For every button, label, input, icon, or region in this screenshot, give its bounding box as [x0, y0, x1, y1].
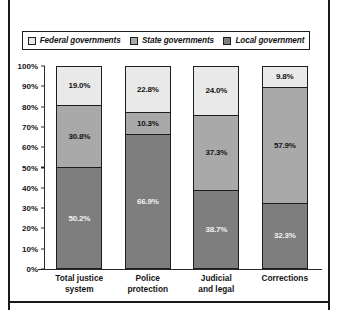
- y-axis-tick: 80%: [10, 102, 45, 111]
- x-axis-category-label-line: Judicial: [177, 273, 255, 284]
- bar-segment[interactable]: 10.3%: [126, 112, 170, 134]
- x-axis-category-label-line: Total justice: [40, 273, 118, 284]
- bar-segment[interactable]: 9.8%: [263, 67, 307, 87]
- bar-segment-value-label: 10.3%: [137, 119, 159, 128]
- legend-item-label: Local government: [235, 36, 304, 45]
- legend-swatch-icon: [223, 37, 231, 45]
- bar-segment-value-label: 37.3%: [205, 148, 227, 157]
- y-axis-tick-label: 10%: [10, 244, 41, 253]
- stacked-bar[interactable]: 19.0%30.8%50.2%: [56, 66, 102, 269]
- x-axis-category-label: Total justicesystem: [40, 273, 118, 294]
- legend-swatch-icon: [28, 37, 36, 45]
- y-axis-tick-mark: [41, 106, 45, 107]
- stacked-bar[interactable]: 22.8%10.3%66.9%: [125, 66, 171, 269]
- page-rule-left: [8, 0, 10, 310]
- bar-segment-value-label: 57.9%: [274, 141, 296, 150]
- y-axis-tick-label: 50%: [10, 163, 41, 172]
- bar-segment[interactable]: 37.3%: [194, 115, 238, 190]
- bar-segment[interactable]: 57.9%: [263, 87, 307, 203]
- y-axis-tick-label: 30%: [10, 204, 41, 213]
- bar-segment-value-label: 38.7%: [205, 225, 227, 234]
- y-axis-tick-label: 20%: [10, 224, 41, 233]
- legend-item: Local government: [223, 36, 304, 45]
- x-axis-category-label: Policeprotection: [109, 273, 187, 294]
- y-axis-tick-mark: [41, 187, 45, 188]
- y-axis-tick: 40%: [10, 183, 45, 192]
- y-axis-tick: 30%: [10, 204, 45, 213]
- y-axis-tick: 20%: [10, 224, 45, 233]
- page-rule-bottom: [8, 301, 329, 303]
- y-axis-tick-label: 0%: [10, 265, 41, 274]
- y-axis-tick-mark: [41, 208, 45, 209]
- y-axis-tick-label: 40%: [10, 183, 41, 192]
- x-axis-category-label-line: Corrections: [246, 273, 324, 284]
- x-axis-category-label: Judicialand legal: [177, 273, 255, 294]
- plot-area: 100%90%80%70%60%50%40%30%20%10%0%19.0%30…: [45, 66, 319, 269]
- bar-segment-value-label: 50.2%: [68, 214, 90, 223]
- x-axis-baseline: [38, 269, 322, 270]
- bar-segment-value-label: 22.8%: [137, 85, 159, 94]
- x-axis-category-label-line: protection: [109, 284, 187, 295]
- y-axis-tick-mark: [41, 126, 45, 127]
- bar-segment-value-label: 19.0%: [68, 81, 90, 90]
- y-axis-tick-mark: [41, 147, 45, 148]
- y-axis-tick-mark: [41, 268, 45, 269]
- bar-segment[interactable]: 22.8%: [126, 67, 170, 112]
- y-axis-tick-mark: [41, 228, 45, 229]
- legend-item-label: State governments: [142, 36, 214, 45]
- legend-swatch-icon: [130, 37, 138, 45]
- stacked-bar-chart-figure: Federal governmentsState governmentsLoca…: [0, 0, 337, 310]
- y-axis-tick-label: 90%: [10, 82, 41, 91]
- page-rule-right: [328, 0, 330, 310]
- bar-segment[interactable]: 19.0%: [57, 67, 101, 105]
- bar-segment[interactable]: 38.7%: [194, 190, 238, 268]
- y-axis-tick-label: 80%: [10, 102, 41, 111]
- legend-item: Federal governments: [28, 36, 121, 45]
- bar-segment[interactable]: 50.2%: [57, 167, 101, 268]
- y-axis-tick-mark: [41, 248, 45, 249]
- y-axis-tick: 70%: [10, 122, 45, 131]
- bar-segment-value-label: 30.8%: [68, 132, 90, 141]
- y-axis-tick-label: 100%: [10, 62, 41, 71]
- legend-item: State governments: [130, 36, 214, 45]
- y-axis-tick-mark: [41, 65, 45, 66]
- y-axis-tick: 10%: [10, 244, 45, 253]
- stacked-bar[interactable]: 9.8%57.9%32.3%: [262, 66, 308, 269]
- bar-segment[interactable]: 66.9%: [126, 134, 170, 268]
- y-axis-tick: 90%: [10, 82, 45, 91]
- x-axis-category-label-line: Police: [109, 273, 187, 284]
- bar-segment-value-label: 24.0%: [205, 86, 227, 95]
- y-axis-tick-mark: [41, 86, 45, 87]
- bar-segment[interactable]: 30.8%: [57, 105, 101, 167]
- y-axis-tick-mark: [41, 167, 45, 168]
- x-axis-category-label-line: system: [40, 284, 118, 295]
- y-axis-tick: 60%: [10, 143, 45, 152]
- chart-legend: Federal governmentsState governmentsLoca…: [22, 31, 310, 50]
- x-axis-category-label-line: and legal: [177, 284, 255, 295]
- legend-item-label: Federal governments: [40, 36, 121, 45]
- bar-segment[interactable]: 32.3%: [263, 203, 307, 268]
- x-axis-category-label: Corrections: [246, 273, 324, 284]
- y-axis-tick-label: 60%: [10, 143, 41, 152]
- y-axis-tick-label: 70%: [10, 122, 41, 131]
- bar-segment-value-label: 32.3%: [274, 231, 296, 240]
- bar-segment[interactable]: 24.0%: [194, 67, 238, 115]
- y-axis-tick: 100%: [10, 62, 45, 71]
- bar-segment-value-label: 9.8%: [276, 72, 293, 81]
- bar-segment-value-label: 66.9%: [137, 197, 159, 206]
- stacked-bar[interactable]: 24.0%37.3%38.7%: [193, 66, 239, 269]
- y-axis-tick: 50%: [10, 163, 45, 172]
